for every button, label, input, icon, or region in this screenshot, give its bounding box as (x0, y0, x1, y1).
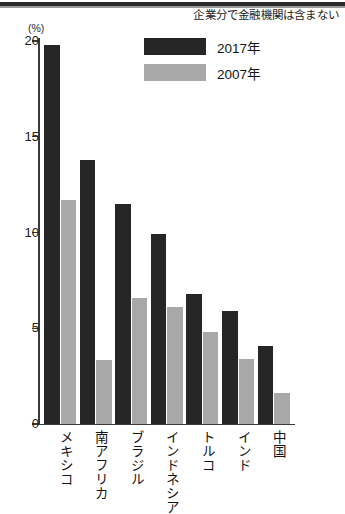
bar-2007 (132, 298, 148, 424)
bar-2007 (61, 200, 77, 424)
bar-2007 (203, 332, 219, 424)
bar-2007 (274, 393, 290, 424)
x-axis-category-label: 南アフリカ (92, 430, 108, 500)
bar-2007 (167, 307, 183, 424)
x-axis-category-label: メキシコ (57, 430, 73, 486)
bar-2007 (239, 359, 255, 424)
bar-2017 (186, 294, 202, 424)
bar-2017 (258, 346, 274, 425)
bar-2017 (80, 160, 96, 424)
chart-legend: 2017年 2007年 (144, 38, 260, 90)
bar-2017 (44, 45, 60, 424)
legend-swatch-2017-icon (144, 38, 206, 55)
legend-item: 2007年 (144, 64, 260, 81)
legend-item: 2017年 (144, 38, 260, 55)
bar-2017 (222, 311, 238, 424)
bar-2017 (115, 204, 131, 424)
legend-label-2017: 2017年 (217, 37, 260, 57)
x-axis-category-label: インドネシア (163, 430, 179, 514)
legend-label-2007: 2007年 (217, 63, 260, 83)
x-axis-category-label: インド (235, 430, 251, 472)
bar-2007 (96, 360, 112, 424)
legend-swatch-2007-icon (144, 64, 206, 81)
bar-2017 (151, 234, 167, 424)
x-axis-category-label: ブラジル (128, 430, 144, 486)
x-axis-category-label: トルコ (199, 430, 215, 472)
x-axis-category-label: 中国 (270, 430, 286, 458)
